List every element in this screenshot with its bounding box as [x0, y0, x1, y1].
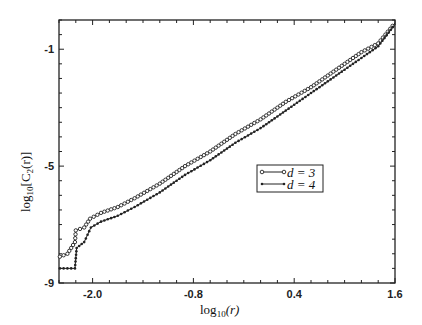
series-d3	[58, 23, 395, 258]
x-tick-label: -2.0	[83, 288, 102, 300]
correlation-chart: -2.0-0.80.41.6-1-5-9 log10(r) log10[C2(r…	[0, 0, 422, 325]
y-tick-label: -1	[44, 43, 54, 55]
axis-ticks	[59, 20, 395, 283]
plot-frame	[59, 20, 395, 283]
x-axis-title: log10(r)	[200, 302, 239, 319]
x-tick-label: -0.8	[184, 288, 203, 300]
x-tick-label: 0.4	[287, 288, 303, 300]
series-d4	[59, 24, 395, 269]
y-tick-label: -5	[44, 160, 54, 172]
y-tick-label: -9	[44, 277, 54, 289]
data-series	[58, 23, 395, 270]
svg-text:d = 4: d = 4	[287, 177, 316, 192]
legend: d = 3 d = 4	[257, 165, 323, 192]
y-axis-title: log10[C2(r)]	[18, 152, 35, 212]
tick-labels: -2.0-0.80.41.6-1-5-9	[44, 43, 402, 300]
x-tick-label: 1.6	[387, 288, 402, 300]
